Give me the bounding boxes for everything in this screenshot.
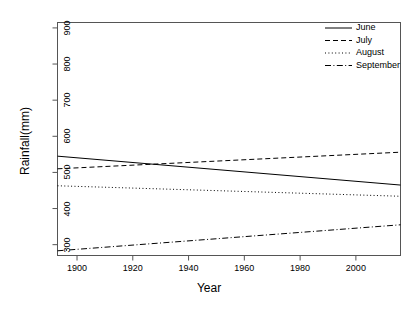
y-tick-label: 700 bbox=[62, 93, 72, 108]
y-tick-label-wrap: 500 bbox=[27, 167, 67, 177]
y-tick-label: 400 bbox=[62, 201, 72, 216]
chart-figure: Year Rainfall(mm) 1900192019401960198020… bbox=[0, 0, 418, 309]
legend-label-july: July bbox=[356, 35, 372, 45]
series-line-august bbox=[58, 186, 401, 196]
y-tick-label: 600 bbox=[62, 129, 72, 144]
y-tick-label: 500 bbox=[62, 165, 72, 180]
x-tick-label: 1940 bbox=[179, 263, 199, 273]
x-axis-ticks bbox=[77, 256, 356, 261]
legend-label-august: August bbox=[356, 47, 384, 57]
y-tick-label: 900 bbox=[62, 20, 72, 35]
y-tick-label-wrap: 600 bbox=[27, 131, 67, 141]
y-tick-label-wrap: 900 bbox=[27, 23, 67, 33]
plot-frame bbox=[58, 23, 401, 256]
data-series-group bbox=[58, 152, 401, 251]
x-axis-title: Year bbox=[0, 281, 418, 295]
legend-label-september: September bbox=[356, 60, 400, 70]
legend-label-june: June bbox=[356, 22, 376, 32]
legend-lines-group bbox=[325, 28, 352, 66]
x-tick-label: 1960 bbox=[234, 263, 254, 273]
y-tick-label-wrap: 400 bbox=[27, 204, 67, 214]
y-tick-label: 800 bbox=[62, 57, 72, 72]
x-tick-label: 1980 bbox=[290, 263, 310, 273]
x-tick-label: 1900 bbox=[67, 263, 87, 273]
plot-border bbox=[58, 23, 401, 256]
x-tick-label: 1920 bbox=[123, 263, 143, 273]
y-tick-label-wrap: 300 bbox=[27, 240, 67, 250]
x-tick-label: 2000 bbox=[346, 263, 366, 273]
y-tick-label-wrap: 800 bbox=[27, 59, 67, 69]
y-tick-label: 300 bbox=[62, 237, 72, 252]
series-line-september bbox=[58, 225, 401, 251]
y-tick-label-wrap: 700 bbox=[27, 95, 67, 105]
